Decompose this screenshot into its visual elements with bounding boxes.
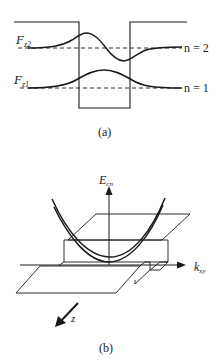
kxy-arrowhead [177,262,186,269]
z-axis [60,303,78,322]
wavefunction-n1 [28,70,182,88]
quantum-well-outline [14,22,187,108]
label-z: z [70,312,76,324]
caption-a: (a) [98,125,111,139]
panel-a: Fz2 Fz1 n = 2 n = 1 (a) [13,22,209,139]
diagram-canvas: Fz2 Fz1 n = 2 n = 1 (a) Ecn kxy z (b) [0,0,224,361]
label-fz1: Fz1 [13,72,29,89]
wavefunction-n2 [28,33,182,61]
label-n2: n = 2 [184,41,209,55]
label-fz2: Fz2 [15,32,31,49]
panel-b: Ecn kxy z (b) [16,173,206,355]
step-edge [150,262,168,270]
label-kxy: kxy [194,260,206,275]
label-n1: n = 1 [184,81,209,95]
upper-plane [68,214,190,240]
label-ecn: Ecn [98,173,113,188]
well-box [64,240,168,262]
caption-b: (b) [99,341,113,355]
lower-plane [16,266,140,293]
